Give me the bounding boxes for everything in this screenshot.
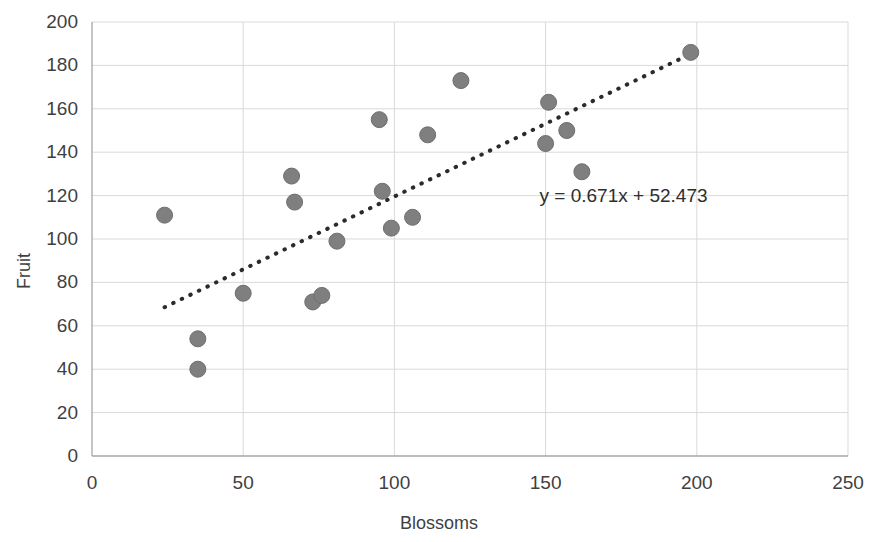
scatter-point: [453, 73, 469, 89]
scatter-point: [190, 361, 206, 377]
scatter-point: [287, 194, 303, 210]
scatter-point: [405, 209, 421, 225]
scatter-point: [284, 168, 300, 184]
trendline-equation-label: y = 0.671x + 52.473: [540, 185, 708, 207]
y-tick-label: 0: [12, 445, 78, 467]
scatter-chart: 200180160140120100806040200 050100150200…: [0, 0, 878, 542]
scatter-point: [329, 233, 345, 249]
scatter-point: [190, 331, 206, 347]
scatter-point: [574, 164, 590, 180]
scatter-point: [374, 183, 390, 199]
y-tick-label: 160: [12, 98, 78, 120]
gridlines: [92, 22, 848, 456]
scatter-point: [235, 285, 251, 301]
y-tick-label: 20: [12, 402, 78, 424]
plot-area: [0, 0, 878, 542]
y-tick-label: 140: [12, 141, 78, 163]
y-tick-label: 120: [12, 185, 78, 207]
x-tick-label: 50: [233, 472, 254, 494]
scatter-point: [541, 94, 557, 110]
x-tick-label: 200: [681, 472, 713, 494]
y-axis-title: Fruit: [14, 253, 35, 289]
y-tick-label: 100: [12, 228, 78, 250]
scatter-point: [538, 136, 554, 152]
scatter-point: [314, 287, 330, 303]
scatter-point: [157, 207, 173, 223]
x-tick-label: 150: [530, 472, 562, 494]
scatter-point: [383, 220, 399, 236]
x-tick-label: 250: [832, 472, 864, 494]
x-axis-title: Blossoms: [0, 513, 878, 534]
y-tick-label: 180: [12, 54, 78, 76]
x-tick-label: 0: [87, 472, 98, 494]
scatter-point: [420, 127, 436, 143]
scatter-point: [559, 123, 575, 139]
y-tick-label: 40: [12, 358, 78, 380]
data-points: [157, 44, 699, 377]
scatter-point: [683, 44, 699, 60]
y-tick-label: 60: [12, 315, 78, 337]
scatter-point: [371, 112, 387, 128]
x-tick-label: 100: [379, 472, 411, 494]
y-tick-label: 200: [12, 11, 78, 33]
